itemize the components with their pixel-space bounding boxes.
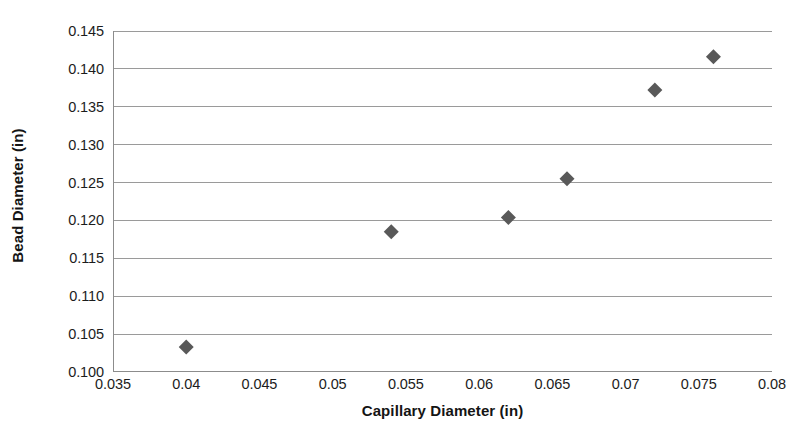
data-point-marker [706,49,721,64]
data-markers [179,49,721,354]
y-tick-label: 0.140 [41,61,113,77]
plot-canvas [113,31,772,372]
data-point-marker [501,210,516,225]
data-point-marker [384,224,399,239]
y-tick-label: 0.125 [41,175,113,191]
x-axis-title: Capillary Diameter (in) [113,402,772,419]
y-tick-label: 0.120 [41,212,113,228]
scatter-chart: Bead Diameter (in) 0.1000.1050.1100.1150… [0,0,806,444]
data-point-marker [179,339,194,354]
y-tick-label: 0.130 [41,137,113,153]
x-axis-tick-labels: 0.0350.040.0450.050.0550.060.0650.070.07… [0,376,806,402]
y-tick-label: 0.115 [41,250,113,266]
data-point-marker [559,171,574,186]
gridlines [113,31,772,372]
y-axis-title-label: Bead Diameter (in) [9,128,26,262]
axis-frame [113,31,772,372]
plot-area [113,31,772,372]
y-tick-label: 0.145 [41,23,113,39]
x-tick-label: 0.08 [727,376,806,392]
y-tick-label: 0.135 [41,99,113,115]
y-tick-label: 0.110 [41,288,113,304]
y-tick-label: 0.105 [41,326,113,342]
data-point-marker [647,83,662,98]
y-axis-title: Bead Diameter (in) [0,0,34,390]
